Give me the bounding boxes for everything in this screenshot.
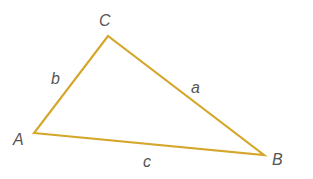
side-label-c: c	[143, 153, 151, 170]
side-label-b: b	[51, 70, 60, 87]
vertex-label-a: A	[12, 131, 24, 148]
triangle-diagram: C A B b a c	[0, 0, 313, 179]
side-label-a: a	[191, 79, 200, 96]
vertex-label-c: C	[99, 12, 111, 29]
triangle-shape	[34, 36, 264, 155]
vertex-label-b: B	[272, 151, 283, 168]
